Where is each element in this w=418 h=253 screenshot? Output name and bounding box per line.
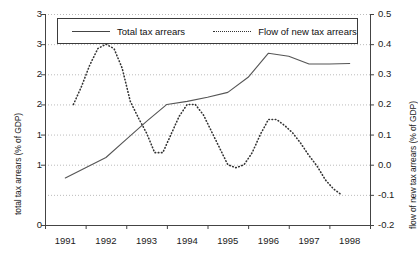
legend-dotted-line-icon [213,27,251,36]
chart-legend: Total tax arrears Flow of new tax arrear… [57,18,358,44]
series-line-flow-of-new-tax-arrears [73,44,341,195]
series-line-total-tax-arrears [65,53,349,178]
legend-label-flow-of-new-tax-arrears: Flow of new tax arrears [258,26,357,37]
legend-solid-line-icon [72,27,110,36]
legend-item-total-tax-arrears: Total tax arrears [72,26,185,37]
legend-item-flow-of-new-tax-arrears: Flow of new tax arrears [213,26,357,37]
legend-label-total-tax-arrears: Total tax arrears [117,26,185,37]
